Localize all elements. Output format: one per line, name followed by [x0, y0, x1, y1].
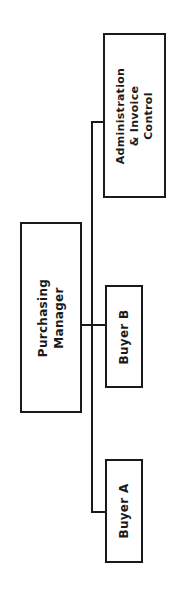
node-admin-invoice-control: Administration & Invoice Control — [103, 33, 166, 198]
node-purchasing-manager: Purchasing Manager — [20, 222, 82, 413]
node-manager-label: Purchasing Manager — [35, 278, 67, 356]
node-buyer-b: Buyer B — [105, 285, 143, 388]
trunk-connector — [91, 121, 93, 513]
buyer-a-text: Buyer A — [117, 483, 131, 538]
connector-buyer-b — [92, 324, 105, 326]
manager-line2: Manager — [51, 278, 67, 356]
node-buyer-b-label: Buyer B — [117, 309, 131, 364]
node-admin-label: Administration & Invoice Control — [114, 67, 156, 164]
node-buyer-a-label: Buyer A — [117, 483, 131, 538]
admin-line2: & Invoice — [128, 67, 142, 164]
connector-manager — [81, 324, 92, 326]
manager-line1: Purchasing — [35, 278, 51, 356]
admin-line1: Administration — [114, 67, 128, 164]
admin-line3: Control — [142, 67, 156, 164]
connector-buyer-a — [91, 511, 105, 513]
buyer-b-text: Buyer B — [117, 309, 131, 364]
node-buyer-a: Buyer A — [105, 459, 143, 563]
